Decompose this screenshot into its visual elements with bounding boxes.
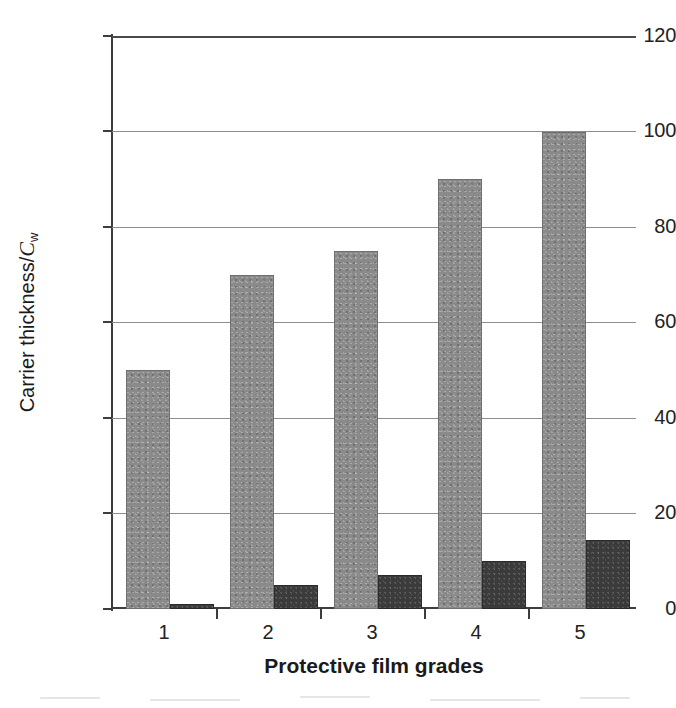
scan-artifact: [150, 699, 240, 701]
bar-series2-cat5: [586, 540, 630, 609]
x-tick-mark: [216, 609, 218, 619]
bar-series2-cat4: [482, 561, 526, 609]
y-tick-mark: [103, 321, 112, 323]
y-axis-title: Carrier thickness/Cw: [13, 36, 41, 609]
x-axis-title: Protective film grades: [112, 655, 636, 676]
bar-series2-cat2: [274, 585, 318, 609]
bar-series1-cat5: [542, 132, 586, 609]
y-axis-title-prefix: Carrier thickness/: [16, 257, 38, 413]
scan-artifact: [430, 699, 540, 701]
bar-series2-cat3: [378, 575, 422, 609]
y-tick-mark: [103, 417, 112, 419]
y-tick-mark: [103, 130, 112, 132]
gridline-120: [112, 36, 636, 38]
bar-series1-cat4: [438, 179, 482, 609]
y-tick-mark: [103, 608, 112, 610]
bar-series2-cat1: [170, 604, 214, 609]
y-tick-mark: [103, 226, 112, 228]
x-tick-label-1: 1: [134, 622, 194, 642]
plot-area: [112, 36, 636, 609]
x-tick-mark: [424, 609, 426, 619]
bar-series1-cat2: [230, 275, 274, 609]
x-tick-label-5: 5: [550, 622, 610, 642]
bar-series1-cat1: [126, 370, 170, 609]
x-tick-mark: [528, 609, 530, 619]
y-tick-mark: [103, 512, 112, 514]
bar-chart-figure: 120 100 80 60 40 20 0 1 2 3 4 5: [0, 0, 676, 708]
scan-artifact: [300, 696, 370, 698]
y-axis-title-symbol: C: [14, 242, 39, 257]
x-tick-mark: [320, 609, 322, 619]
y-axis-title-subscript: w: [26, 233, 41, 242]
scan-artifact: [40, 697, 100, 699]
x-tick-label-4: 4: [446, 622, 506, 642]
bar-series1-cat3: [334, 251, 378, 609]
x-tick-label-3: 3: [342, 622, 402, 642]
scan-artifact: [580, 697, 630, 699]
x-tick-label-2: 2: [238, 622, 298, 642]
y-tick-mark: [103, 35, 112, 37]
